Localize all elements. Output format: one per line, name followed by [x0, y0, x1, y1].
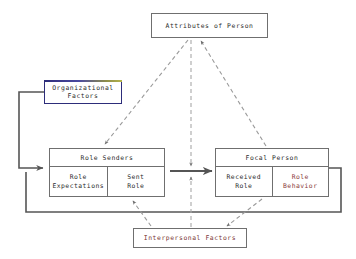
diagram-canvas: Attributes of Person Organizational Fact…: [0, 0, 356, 259]
focal-person-cells: Received Role Role Behavior: [216, 166, 328, 196]
role-senders-cells: Role Expectations Sent Role: [50, 166, 164, 196]
node-attributes-label: Attributes of Person: [152, 14, 267, 37]
node-focal-person[interactable]: Focal Person Received Role Role Behavior: [215, 148, 329, 197]
cell-role-behavior[interactable]: Role Behavior: [272, 167, 329, 196]
node-role-senders[interactable]: Role Senders Role Expectations Sent Role: [49, 148, 165, 197]
node-interpersonal-label: Interpersonal Factors: [134, 229, 246, 247]
node-interpersonal-factors[interactable]: Interpersonal Factors: [133, 228, 247, 248]
edge-interpersonal-to-senders: [133, 201, 151, 226]
node-role-senders-label: Role Senders: [50, 149, 164, 166]
edge-focal-to-attributes: [201, 41, 266, 146]
node-organizational-factors[interactable]: Organizational Factors: [44, 80, 122, 104]
cell-role-expectations[interactable]: Role Expectations: [50, 167, 107, 196]
cell-sent-role[interactable]: Sent Role: [107, 167, 165, 196]
edge-org-to-senders: [19, 92, 44, 168]
node-organizational-label: Organizational Factors: [45, 81, 121, 103]
node-focal-person-label: Focal Person: [216, 149, 328, 166]
node-attributes-of-person[interactable]: Attributes of Person: [151, 13, 268, 38]
connector-layer: [0, 0, 356, 259]
cell-received-role[interactable]: Received Role: [216, 167, 272, 196]
